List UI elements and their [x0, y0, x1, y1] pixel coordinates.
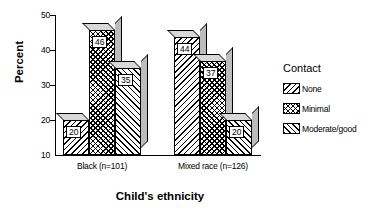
legend-label-minimal: Minimal	[302, 104, 330, 114]
y-tick-label-10: 10	[4, 151, 50, 160]
bar-value-label: 46	[92, 36, 107, 48]
y-tick-label-20: 20	[4, 116, 50, 125]
bar-top-face	[82, 23, 115, 30]
legend-item-moderate-good: Moderate/good	[283, 123, 379, 134]
legend-item-minimal: Minimal	[283, 103, 379, 114]
bar-value-label: 35	[118, 74, 133, 86]
y-tick-label-50: 50	[4, 11, 50, 20]
chart-figure: Percent 50 40 30 20 10 20 46 35 B	[0, 0, 381, 218]
legend-swatch-none	[283, 83, 300, 94]
bar-front-face	[89, 30, 115, 155]
x-tick-label-mixed-race: Mixed race (n=126)	[163, 161, 263, 171]
x-axis-line	[55, 155, 261, 156]
bar-black-minimal	[89, 30, 115, 155]
bar-value-label: 37	[203, 67, 218, 79]
legend-label-moderate-good: Moderate/good	[302, 124, 357, 134]
bar-side-face	[141, 54, 148, 148]
y-axis-line	[55, 15, 56, 156]
bar-value-label: 20	[66, 126, 81, 138]
legend-swatch-minimal	[283, 103, 300, 114]
bar-value-label: 20	[229, 126, 244, 138]
bar-top-face	[167, 30, 200, 37]
bar-side-face	[252, 106, 259, 148]
x-tick-label-black: Black (n=101)	[52, 161, 152, 171]
bar-value-label: 44	[177, 43, 192, 55]
legend-item-none: None	[283, 83, 379, 94]
x-axis-title: Child's ethnicity	[40, 190, 280, 202]
y-axis-title: Percent	[13, 19, 25, 105]
legend-title: Contact	[283, 62, 379, 74]
y-tick-label-30: 30	[4, 81, 50, 90]
legend: Contact None Minimal Moderate/good	[283, 62, 379, 143]
y-tick-label-40: 40	[4, 46, 50, 55]
legend-label-none: None	[302, 84, 322, 94]
legend-swatch-moderate-good	[283, 123, 300, 134]
bar-top-face	[56, 113, 89, 120]
